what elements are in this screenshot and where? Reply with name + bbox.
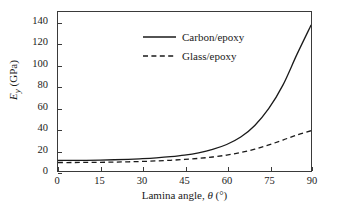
y-tick-label-80: 80 [14,79,48,90]
y-tick-label-60: 60 [14,101,48,112]
legend-line-solid-icon [143,32,176,42]
chart-legend: Carbon/epoxy Glass/epoxy [143,27,283,65]
legend-label-carbon-epoxy: Carbon/epoxy [182,31,244,43]
legend-item-carbon-epoxy: Carbon/epoxy [143,27,283,46]
x-tick-label-45: 45 [170,175,200,186]
legend-item-glass-epoxy: Glass/epoxy [143,46,283,65]
x-tick-label-0: 0 [42,175,72,186]
x-tick-label-75: 75 [255,175,285,186]
y-tick-label-140: 140 [14,15,48,26]
legend-label-glass-epoxy: Glass/epoxy [182,50,236,62]
x-tick-label-60: 60 [212,175,242,186]
x-tick-mark-90 [312,167,313,171]
x-axis-title-prefix: Lamina angle, [142,189,208,201]
x-axis-title: Lamina angle, θ (°) [57,189,312,201]
y-tick-label-40: 40 [14,122,48,133]
x-tick-label-15: 15 [85,175,115,186]
chart-figure: Ey (GPa) 0 20 40 60 80 100 120 140 0 15 … [0,0,337,212]
y-tick-label-120: 120 [14,36,48,47]
plot-area: Carbon/epoxy Glass/epoxy [57,11,312,172]
x-axis-title-unit: (°) [213,189,227,201]
x-tick-label-30: 30 [127,175,157,186]
curve-glass-epoxy [58,131,311,163]
y-tick-label-20: 20 [14,144,48,155]
y-tick-label-100: 100 [14,58,48,69]
legend-line-dashed-icon [143,51,176,61]
y-tick-mark-0 [58,173,62,174]
x-tick-label-90: 90 [297,175,327,186]
y-axis-title-symbol: E [7,93,19,100]
